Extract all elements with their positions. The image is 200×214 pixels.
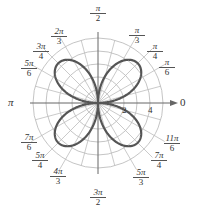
label-zero: 0 (180, 98, 186, 107)
label-pi: π (8, 98, 14, 107)
angle-label-pi_3: π3 (129, 26, 145, 45)
angle-label-11pi_6: 11π6 (164, 134, 180, 153)
angle-label-2pi_3: 2π3 (51, 27, 67, 46)
angle-label-5pi_4: 5π4 (32, 151, 48, 170)
angle-label-4pi_3: 4π3 (50, 167, 66, 186)
angle-label-5pi_3: 5π3 (133, 168, 149, 187)
arrow-icon (170, 100, 178, 106)
angle-label-7pi_4: 7π4 (151, 151, 167, 170)
angle-label-3pi_2: 3π2 (90, 188, 106, 207)
angle-label-5pi_6: 5π6 (21, 59, 37, 78)
angle-label-pi_2: π2 (90, 4, 106, 23)
radial-label-4: 4 (148, 106, 153, 115)
angle-label-pi_6: π6 (159, 58, 175, 77)
polar-plot (0, 0, 200, 214)
radial-label-2: 2 (122, 106, 127, 115)
